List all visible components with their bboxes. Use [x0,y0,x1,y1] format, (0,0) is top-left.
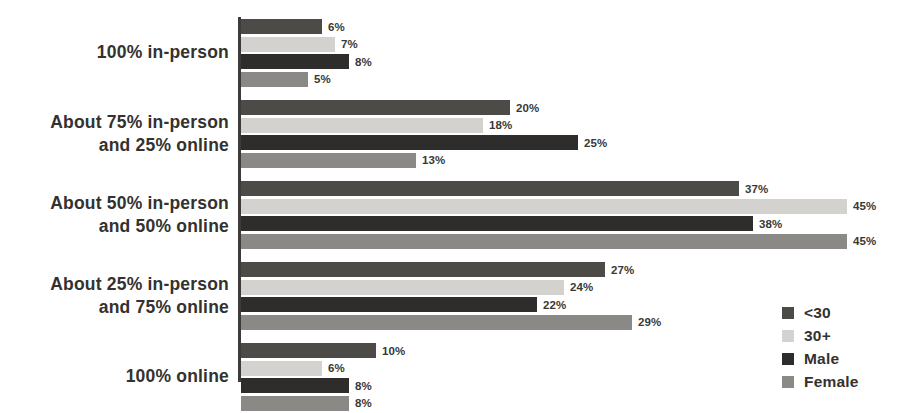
chart-legend: <3030+MaleFemale [782,302,859,394]
category-label-line: About 25% in-person [0,273,229,296]
bar-row: 5% [241,72,910,87]
bar-row: 6% [241,19,910,34]
category-label-line: 100% in-person [0,41,229,64]
bar [241,118,483,133]
legend-label: <30 [804,304,831,322]
bar [241,216,753,231]
bar-value-label: 22% [543,299,566,311]
bar-value-label: 5% [314,73,331,85]
bar [241,315,632,330]
bar [241,54,349,69]
bar-value-label: 8% [355,397,372,409]
category-label-line: and 50% online [0,215,229,238]
category-label: 100% online [0,365,229,388]
bar-value-label: 24% [570,281,593,293]
bar-row: 25% [241,135,910,150]
category-label-line: and 75% online [0,296,229,319]
legend-swatch-icon [782,330,794,342]
bar [241,37,335,52]
bar-group: 37%45%38%45% [241,181,910,251]
bar-value-label: 38% [759,218,782,230]
legend-swatch-icon [782,353,794,365]
bar [241,378,349,393]
bar [241,396,349,411]
bar-value-label: 13% [422,154,445,166]
bar-row: 24% [241,280,910,295]
category-label-line: About 50% in-person [0,192,229,215]
bar-value-label: 6% [328,362,345,374]
legend-label: Female [804,373,859,391]
bar-value-label: 8% [355,380,372,392]
bar-value-label: 37% [745,183,768,195]
category-label-line: 100% online [0,365,229,388]
bar [241,234,847,249]
bar-value-label: 10% [382,345,405,357]
category-label: 100% in-person [0,41,229,64]
legend-item[interactable]: Male [782,348,859,369]
bar-value-label: 45% [853,235,876,247]
legend-label: 30+ [804,327,831,345]
bar-value-label: 8% [355,56,372,68]
bar-row: 38% [241,216,910,231]
legend-swatch-icon [782,307,794,319]
bar [241,199,847,214]
bar-row: 27% [241,262,910,277]
legend-swatch-icon [782,376,794,388]
bar-value-label: 29% [638,316,661,328]
legend-label: Male [804,350,839,368]
bar-row: 18% [241,118,910,133]
bar-row: 45% [241,234,910,249]
category-label-line: and 25% online [0,134,229,157]
bar-value-label: 20% [516,102,539,114]
category-label: About 75% in-personand 25% online [0,111,229,157]
category-label-line: About 75% in-person [0,111,229,134]
bar [241,153,416,168]
bar [241,72,308,87]
bar-value-label: 45% [853,200,876,212]
bar-row: 45% [241,199,910,214]
bar-value-label: 6% [328,21,345,33]
legend-item[interactable]: 30+ [782,325,859,346]
bar [241,135,578,150]
bar [241,280,564,295]
bar-row: 37% [241,181,910,196]
category-label: About 25% in-personand 75% online [0,273,229,319]
bar-value-label: 18% [489,119,512,131]
legend-item[interactable]: Female [782,371,859,392]
bar [241,262,605,277]
bar [241,343,376,358]
bar-group: 20%18%25%13% [241,100,910,170]
bar-row: 20% [241,100,910,115]
category-label: About 50% in-personand 50% online [0,192,229,238]
bar-value-label: 27% [611,264,634,276]
bar [241,361,322,376]
bar-row: 8% [241,396,910,411]
bar-row: 8% [241,54,910,69]
bar [241,181,739,196]
bar-group: 6%7%8%5% [241,19,910,89]
bar-value-label: 7% [341,38,358,50]
bar-value-label: 25% [584,137,607,149]
legend-item[interactable]: <30 [782,302,859,323]
bar [241,19,322,34]
bar [241,297,537,312]
bar-row: 7% [241,37,910,52]
bar [241,100,510,115]
bar-row: 13% [241,153,910,168]
